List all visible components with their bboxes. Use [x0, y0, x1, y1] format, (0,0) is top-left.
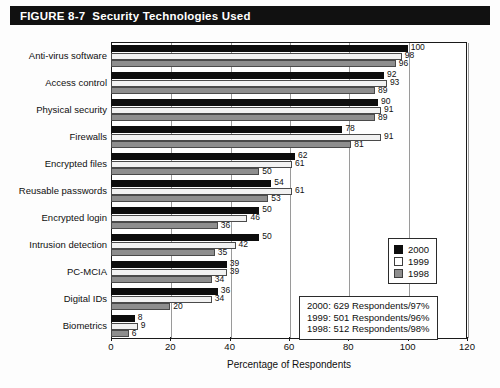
- legend-swatch-2000: [394, 245, 403, 254]
- bar-1999-digital-ids: [111, 296, 212, 303]
- x-tick-label: 20: [165, 341, 176, 352]
- bar-2000-physical-security: [111, 99, 378, 106]
- bar-value-label: 53: [271, 195, 280, 202]
- bar-value-label: 81: [354, 141, 363, 148]
- bar-value-label: 89: [378, 114, 387, 121]
- bar-1999-access-control: [111, 80, 387, 87]
- x-tick-label: 120: [459, 341, 475, 352]
- legend-swatch-1998: [394, 269, 403, 278]
- bar-1998-anti-virus-software: [111, 60, 396, 67]
- bar-1999-intrusion-detection: [111, 242, 236, 249]
- category-label-intrusion-detection: Intrusion detection: [0, 239, 107, 250]
- bar-value-label: 78: [345, 125, 354, 132]
- category-label-reusable-passwords: Reusable passwords: [0, 185, 107, 196]
- gridline: [468, 43, 469, 338]
- bar-value-label: 34: [215, 295, 224, 302]
- bar-value-label: 50: [262, 233, 271, 240]
- figure-title: FIGURE 8-7Security Technologies Used: [10, 10, 251, 22]
- bar-value-label: 39: [230, 268, 239, 275]
- bar-value-label: 42: [239, 241, 248, 248]
- x-axis-ticks: 020406080100120: [111, 341, 467, 355]
- legend-label-1998: 1998: [408, 268, 429, 279]
- legend-item-1999: 1999: [394, 255, 429, 267]
- bar-2000-reusable-passwords: [111, 180, 271, 187]
- category-label-access-control: Access control: [0, 77, 107, 88]
- category-label-pc-mcia: PC-MCIA: [0, 266, 107, 277]
- bar-value-label: 93: [390, 79, 399, 86]
- bar-1999-reusable-passwords: [111, 188, 292, 195]
- figure-number: FIGURE 8-7: [20, 10, 85, 22]
- bar-value-label: 96: [399, 60, 408, 67]
- note-line-1: 2000: 629 Respondents/97%: [307, 300, 430, 312]
- category-label-biometrics: Biometrics: [0, 320, 107, 331]
- bar-2000-access-control: [111, 72, 384, 79]
- bar-value-label: 54: [274, 179, 283, 186]
- bar-1998-physical-security: [111, 114, 375, 121]
- bar-2000-encrypted-files: [111, 153, 295, 160]
- figure-container: FIGURE 8-7Security Technologies Used Ant…: [0, 0, 500, 388]
- legend-item-2000: 2000: [394, 243, 429, 255]
- bar-1998-firewalls: [111, 141, 351, 148]
- bar-1999-firewalls: [111, 134, 381, 141]
- legend-swatch-1999: [394, 257, 403, 266]
- legend-item-1998: 1998: [394, 267, 429, 279]
- bar-1998-digital-ids: [111, 303, 170, 310]
- bar-1999-physical-security: [111, 107, 381, 114]
- bar-2000-intrusion-detection: [111, 234, 259, 241]
- legend-label-1999: 1999: [408, 256, 429, 267]
- category-label-firewalls: Firewalls: [0, 131, 107, 142]
- legend-label-2000: 2000: [408, 244, 429, 255]
- bar-1998-encrypted-files: [111, 168, 259, 175]
- bar-value-label: 50: [262, 168, 271, 175]
- figure-title-text: Security Technologies Used: [92, 10, 250, 22]
- bar-2000-anti-virus-software: [111, 45, 408, 52]
- chart-legend: 200019991998: [388, 238, 437, 284]
- bar-value-label: 6: [132, 330, 137, 337]
- x-tick-label: 80: [343, 341, 354, 352]
- bar-value-label: 91: [384, 133, 393, 140]
- bar-2000-pc-mcia: [111, 261, 227, 268]
- bar-value-label: 50: [262, 206, 271, 213]
- category-label-anti-virus-software: Anti-virus software: [0, 50, 107, 61]
- x-tick-label: 100: [400, 341, 416, 352]
- bar-1998-reusable-passwords: [111, 195, 268, 202]
- bar-1998-pc-mcia: [111, 276, 212, 283]
- bar-2000-firewalls: [111, 126, 342, 133]
- category-label-encrypted-files: Encrypted files: [0, 158, 107, 169]
- category-label-encrypted-login: Encrypted login: [0, 212, 107, 223]
- bar-2000-digital-ids: [111, 288, 218, 295]
- bar-2000-encrypted-login: [111, 207, 259, 214]
- figure-title-bar: FIGURE 8-7Security Technologies Used: [10, 6, 490, 25]
- bar-value-label: 89: [378, 87, 387, 94]
- bar-1998-biometrics: [111, 330, 129, 337]
- note-line-2: 1999: 501 Respondents/96%: [307, 312, 430, 324]
- bar-value-label: 34: [215, 276, 224, 283]
- bar-1999-pc-mcia: [111, 269, 227, 276]
- bar-2000-biometrics: [111, 315, 135, 322]
- x-tick-label: 0: [108, 341, 113, 352]
- x-axis-label: Percentage of Respondents: [111, 359, 467, 370]
- bar-value-label: 9: [141, 322, 146, 329]
- bar-value-label: 36: [221, 222, 230, 229]
- note-line-3: 1998: 512 Respondents/98%: [307, 323, 430, 335]
- category-label-digital-ids: Digital IDs: [0, 293, 107, 304]
- bar-1998-access-control: [111, 87, 375, 94]
- bar-value-label: 35: [218, 249, 227, 256]
- bar-value-label: 61: [295, 187, 304, 194]
- y-axis-category-labels: Anti-virus softwareAccess controlPhysica…: [0, 42, 107, 339]
- bar-groups: 1009896929389909189789181626150546153504…: [111, 42, 467, 339]
- bar-value-label: 61: [295, 160, 304, 167]
- bar-value-label: 20: [173, 303, 182, 310]
- bar-1998-intrusion-detection: [111, 249, 215, 256]
- bar-1999-anti-virus-software: [111, 53, 402, 60]
- respondents-note-box: 2000: 629 Respondents/97%1999: 501 Respo…: [299, 296, 438, 340]
- bar-1998-encrypted-login: [111, 222, 218, 229]
- category-label-physical-security: Physical security: [0, 104, 107, 115]
- x-tick-label: 40: [224, 341, 235, 352]
- x-tick-label: 60: [284, 341, 295, 352]
- bar-value-label: 46: [250, 214, 259, 221]
